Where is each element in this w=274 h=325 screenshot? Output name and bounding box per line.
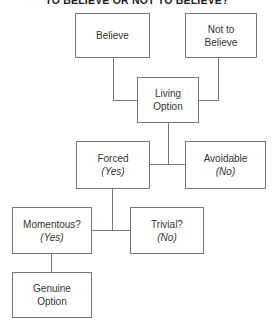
connector-notbelieve-to-living xyxy=(198,100,219,101)
diagram-title: TO BELIEVE OR NOT TO BELIEVE? xyxy=(0,0,274,6)
node-momentous-sub: (Yes) xyxy=(40,231,63,244)
node-not-to-believe-line2: Believe xyxy=(205,36,238,49)
node-believe-label: Believe xyxy=(96,29,129,42)
node-momentous: Momentous? (Yes) xyxy=(12,207,92,254)
connector-notbelieve-down xyxy=(218,57,219,101)
connector-momentous-down xyxy=(51,253,52,272)
node-trivial: Trivial? (No) xyxy=(130,207,204,254)
node-trivial-label: Trivial? xyxy=(151,218,183,231)
node-living-option: Living Option xyxy=(137,77,199,123)
node-genuine-option-line1: Genuine xyxy=(33,282,71,295)
node-forced-sub: (Yes) xyxy=(101,165,124,178)
node-forced-label: Forced xyxy=(97,152,128,165)
connector-living-down xyxy=(168,122,169,164)
node-genuine-option: Genuine Option xyxy=(12,272,92,318)
node-living-option-line1: Living xyxy=(155,87,181,100)
node-trivial-sub: (No) xyxy=(157,231,176,244)
connector-forced-avoidable xyxy=(149,164,185,165)
node-not-to-believe-line1: Not to xyxy=(208,23,235,36)
node-living-option-line2: Option xyxy=(153,100,182,113)
node-believe: Believe xyxy=(75,13,150,58)
node-avoidable-label: Avoidable xyxy=(204,152,248,165)
node-genuine-option-line2: Option xyxy=(37,295,66,308)
node-not-to-believe: Not to Believe xyxy=(185,13,257,58)
node-forced: Forced (Yes) xyxy=(76,141,150,189)
connector-forced-down xyxy=(112,188,113,230)
node-avoidable-sub: (No) xyxy=(216,165,235,178)
node-avoidable: Avoidable (No) xyxy=(185,141,266,189)
connector-believe-to-living xyxy=(113,100,137,101)
connector-momentous-trivial xyxy=(91,230,130,231)
connector-believe-down xyxy=(113,57,114,101)
node-momentous-label: Momentous? xyxy=(23,218,81,231)
